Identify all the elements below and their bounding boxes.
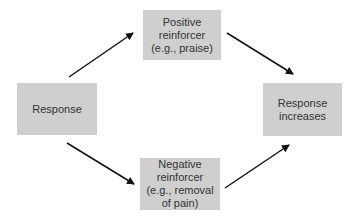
arrow-response-to-negative [67, 143, 134, 184]
node-label-line: Negative [146, 158, 213, 171]
arrow-positive-to-outcome [227, 33, 293, 74]
node-label-line: (e.g., removal [146, 184, 213, 197]
node-response: Response [17, 83, 97, 135]
node-label-line: reinforcer [151, 29, 213, 42]
node-label-line: increases [278, 110, 328, 123]
node-label-line: reinforcer [146, 171, 213, 184]
node-label-line: Response [32, 103, 82, 116]
node-label-line: Positive [151, 16, 213, 29]
node-label-line: Response [278, 97, 328, 110]
node-positive-reinforcer: Positive reinforcer (e.g., praise) [143, 10, 221, 60]
node-label-line: (e.g., praise) [151, 42, 213, 55]
arrow-negative-to-outcome [225, 145, 289, 188]
node-negative-reinforcer: Negative reinforcer (e.g., removal of pa… [140, 158, 220, 210]
node-label-line: of pain) [146, 197, 213, 210]
arrow-response-to-positive [69, 33, 133, 77]
node-response-increases: Response increases [263, 83, 342, 136]
